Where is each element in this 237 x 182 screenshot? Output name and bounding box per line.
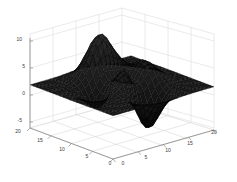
x-tick-label: 20 xyxy=(211,129,217,135)
x-tick-label: 10 xyxy=(165,147,171,153)
x-tick-label: 0 xyxy=(122,160,125,166)
y-tick-label: 10 xyxy=(59,146,65,152)
x-tick-label: 5 xyxy=(145,154,148,160)
z-tick-label: 0 xyxy=(22,90,25,96)
figure-canvas: 1050-52015105005101520 xyxy=(0,0,237,182)
y-tick-label: 20 xyxy=(15,128,21,134)
z-tick-label: -5 xyxy=(18,117,23,123)
y-tick-label: 0 xyxy=(109,160,112,166)
y-tick-label: 5 xyxy=(86,153,89,159)
y-tick-label: 15 xyxy=(37,137,43,143)
surface-plot-3d: 1050-52015105005101520 xyxy=(0,0,237,182)
z-tick-label: 10 xyxy=(16,36,22,42)
z-tick-label: 5 xyxy=(22,63,25,69)
x-tick-label: 15 xyxy=(187,140,193,146)
